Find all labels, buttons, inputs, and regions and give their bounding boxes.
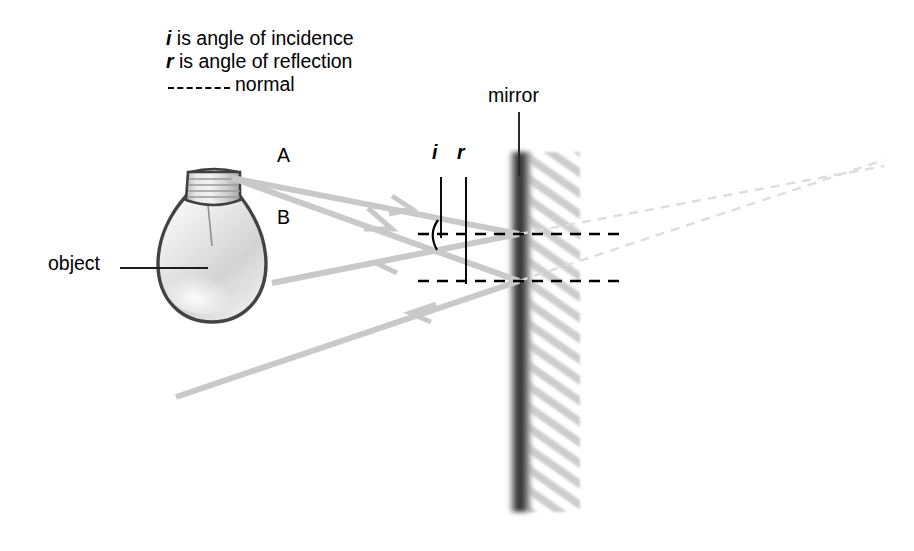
legend: i is angle of incidence r is angle of re… xyxy=(166,27,354,100)
dashed-line-swatch-icon xyxy=(168,87,230,89)
bulb-screw-base xyxy=(186,172,240,205)
angle-of-reflection-label: r xyxy=(457,141,465,164)
mirror-surface xyxy=(509,152,531,512)
reflection-diagram-svg xyxy=(0,0,914,551)
ray-label-b: B xyxy=(277,206,290,229)
legend-incidence-row: i is angle of incidence xyxy=(166,27,354,50)
arrowhead-incident-a xyxy=(389,196,412,214)
angle-of-incidence-label: i xyxy=(432,141,437,164)
ray-label-a: A xyxy=(277,144,290,167)
incident-ray-a xyxy=(232,178,519,234)
mirror-hatching xyxy=(528,152,580,512)
light-bulb-object xyxy=(158,169,266,322)
object-label: object xyxy=(48,252,100,275)
legend-normal-label: normal xyxy=(235,73,295,96)
legend-normal-row: normal xyxy=(166,74,354,100)
legend-reflection-row: r is angle of reflection xyxy=(166,50,354,73)
angle-annotation xyxy=(433,177,466,284)
legend-reflection-text: is angle of reflection xyxy=(174,50,353,72)
mirror-label: mirror xyxy=(488,84,539,107)
mirror-assembly xyxy=(509,112,580,512)
legend-incidence-text: is angle of incidence xyxy=(171,27,353,49)
diagram-canvas: i is angle of incidence r is angle of re… xyxy=(0,0,914,551)
legend-reflection-symbol: r xyxy=(166,50,174,72)
